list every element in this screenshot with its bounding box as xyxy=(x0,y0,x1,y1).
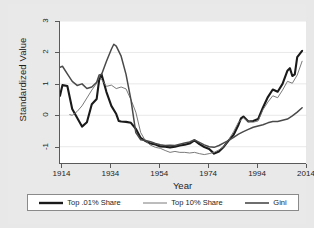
x-tick-label: 1954 xyxy=(142,169,176,178)
chart-screenshot: Standardized Value -10123 19141934195419… xyxy=(0,0,314,228)
chart-legend: Top .01% Share Top 10% Share Gini xyxy=(27,194,299,211)
plot-frame xyxy=(59,21,306,164)
y-tick-label: 2 xyxy=(41,42,50,62)
legend-label-gini: Gini xyxy=(273,198,286,207)
legend-item-top-10[interactable]: Top 10% Share xyxy=(143,198,222,207)
legend-item-gini[interactable]: Gini xyxy=(245,198,286,207)
y-tick-label: 3 xyxy=(41,11,50,31)
x-tick-mark xyxy=(208,164,209,168)
series-line-0 xyxy=(60,51,302,154)
plot-lines xyxy=(60,21,307,164)
legend-label-top-01: Top .01% Share xyxy=(67,198,120,207)
y-tick-label: 1 xyxy=(41,73,50,93)
y-tick-label: 0 xyxy=(41,105,50,125)
x-tick-label: 2014 xyxy=(289,169,314,178)
x-tick-mark xyxy=(159,164,160,168)
legend-line-swatch-top-10 xyxy=(143,199,167,207)
x-tick-label: 1914 xyxy=(44,169,78,178)
x-tick-mark xyxy=(306,164,307,168)
x-tick-mark xyxy=(257,164,258,168)
x-tick-mark xyxy=(110,164,111,168)
x-tick-label: 1994 xyxy=(240,169,274,178)
x-tick-label: 1934 xyxy=(93,169,127,178)
figure-canvas: Standardized Value -10123 19141934195419… xyxy=(8,4,306,224)
y-axis-title: Standardized Value xyxy=(17,0,28,160)
x-axis-title: Year xyxy=(59,180,306,191)
legend-item-top-01[interactable]: Top .01% Share xyxy=(39,198,120,207)
chart-area: Standardized Value -10123 19141934195419… xyxy=(18,8,306,190)
x-tick-label: 1974 xyxy=(191,169,225,178)
y-tick-label: -1 xyxy=(41,136,50,156)
x-tick-mark xyxy=(61,164,62,168)
legend-label-top-10: Top 10% Share xyxy=(171,198,222,207)
series-line-1 xyxy=(70,61,302,154)
legend-line-swatch-top-01 xyxy=(39,199,63,207)
legend-line-swatch-gini xyxy=(245,199,269,207)
